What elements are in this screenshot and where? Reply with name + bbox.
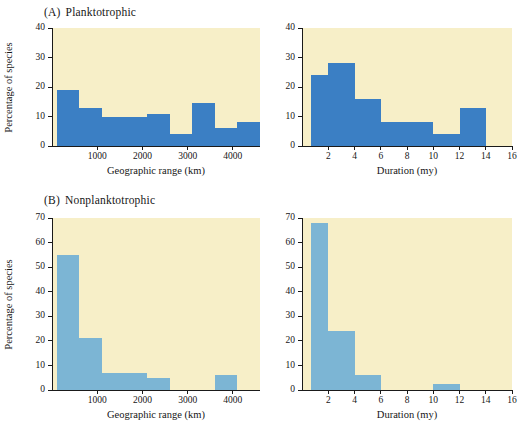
y-tick-label: 10 [36, 360, 46, 370]
x-tick-label: 2000 [133, 395, 152, 405]
histogram-bar [407, 122, 433, 146]
histogram-bar [147, 114, 170, 146]
chart-a-duration: 010203040246810121416Duration (my) [268, 22, 518, 180]
histogram-bar [124, 373, 147, 390]
y-tick-label: 10 [286, 360, 296, 370]
x-tick-label: 12 [455, 151, 465, 161]
histogram-bar [355, 99, 381, 146]
x-tick-label: 8 [405, 395, 410, 405]
y-tick-label: 40 [286, 22, 296, 32]
histogram-bar [124, 117, 147, 147]
histogram-bar [102, 117, 125, 147]
histogram-bar [147, 378, 170, 390]
y-tick-label: 20 [286, 335, 296, 345]
x-tick-label: 6 [378, 151, 383, 161]
panel-planktotrophic: (A)Planktotrophic 0102030401000200030004… [0, 0, 522, 186]
histogram-bar [355, 375, 381, 390]
y-tick-label: 20 [286, 81, 296, 91]
x-tick-label: 14 [481, 151, 491, 161]
y-tick-label: 50 [286, 261, 296, 271]
x-tick-label: 4000 [223, 395, 242, 405]
histogram-bar [311, 75, 328, 146]
histogram-bar [381, 122, 407, 146]
x-tick-label: 1000 [88, 395, 107, 405]
x-tick-label: 4 [352, 151, 357, 161]
x-axis-title: Duration (my) [377, 165, 438, 177]
histogram-bar [102, 373, 125, 390]
x-axis-title: Duration (my) [377, 409, 438, 421]
y-tick-label: 20 [36, 335, 46, 345]
y-tick-label: 70 [36, 212, 46, 222]
x-tick-label: 6 [378, 395, 383, 405]
x-tick-label: 12 [455, 395, 465, 405]
y-tick-label: 0 [40, 384, 45, 394]
histogram-bar [311, 223, 328, 390]
histogram-bar [57, 90, 80, 146]
histogram-bar [215, 128, 238, 146]
y-tick-label: 40 [36, 286, 46, 296]
histogram-bar [433, 134, 459, 146]
histogram-bar [237, 122, 260, 146]
histogram-bar [192, 103, 215, 146]
y-tick-label: 20 [36, 81, 46, 91]
histogram-bar [215, 375, 238, 390]
y-tick-label: 10 [36, 111, 46, 121]
y-tick-label: 0 [290, 384, 295, 394]
x-axis-title: Geographic range (km) [107, 409, 205, 421]
panel-nonplanktotrophic: (B)Nonplanktotrophic 0102030405060701000… [0, 186, 522, 428]
x-axis-title: Geographic range (km) [107, 165, 205, 177]
histogram-bar [460, 108, 486, 146]
x-tick-label: 4000 [223, 151, 242, 161]
figure-root: (A)Planktotrophic 0102030401000200030004… [0, 0, 522, 428]
y-axis-title-panel-b: Percentage of species [2, 259, 13, 349]
y-tick-label: 10 [286, 111, 296, 121]
y-tick-label: 50 [36, 261, 46, 271]
y-tick-label: 0 [290, 140, 295, 150]
histogram-bar [79, 108, 102, 146]
x-tick-label: 2 [326, 151, 331, 161]
histogram-bar [79, 338, 102, 390]
histogram-bar [328, 63, 354, 146]
chart-b-geographic-range: 0102030405060701000200030004000Geographi… [18, 212, 266, 424]
chart-a-geographic-range: 0102030401000200030004000Geographic rang… [18, 22, 266, 180]
y-tick-label: 60 [286, 237, 296, 247]
y-tick-label: 30 [286, 52, 296, 62]
x-tick-label: 14 [481, 395, 491, 405]
x-tick-label: 8 [405, 151, 410, 161]
x-tick-label: 2 [326, 395, 331, 405]
panel-b-label: (B)Nonplanktotrophic [44, 194, 155, 206]
panel-a-label: (A)Planktotrophic [44, 6, 136, 18]
y-tick-label: 40 [286, 286, 296, 296]
histogram-bar [328, 331, 354, 390]
y-tick-label: 30 [36, 52, 46, 62]
histogram-bar [57, 255, 80, 390]
panel-b-tag: (B) [44, 194, 60, 206]
x-tick-label: 1000 [88, 151, 107, 161]
x-tick-label: 3000 [178, 395, 197, 405]
y-tick-label: 30 [36, 310, 46, 320]
y-tick-label: 40 [36, 22, 46, 32]
y-tick-label: 70 [286, 212, 296, 222]
y-tick-label: 60 [36, 237, 46, 247]
y-tick-label: 30 [286, 310, 296, 320]
histogram-bar [433, 384, 459, 390]
x-tick-label: 10 [429, 151, 439, 161]
histogram-bar [170, 134, 193, 146]
chart-b-duration: 010203040506070246810121416Duration (my) [268, 212, 518, 424]
y-tick-label: 0 [40, 140, 45, 150]
x-tick-label: 10 [429, 395, 439, 405]
panel-b-title: Nonplanktotrophic [65, 194, 155, 206]
x-tick-label: 3000 [178, 151, 197, 161]
x-tick-label: 16 [507, 151, 517, 161]
panel-a-title: Planktotrophic [66, 6, 137, 18]
x-tick-label: 2000 [133, 151, 152, 161]
x-tick-label: 4 [352, 395, 357, 405]
panel-a-tag: (A) [44, 6, 61, 18]
x-tick-label: 16 [507, 395, 517, 405]
y-axis-title-panel-a: Percentage of species [2, 42, 13, 132]
